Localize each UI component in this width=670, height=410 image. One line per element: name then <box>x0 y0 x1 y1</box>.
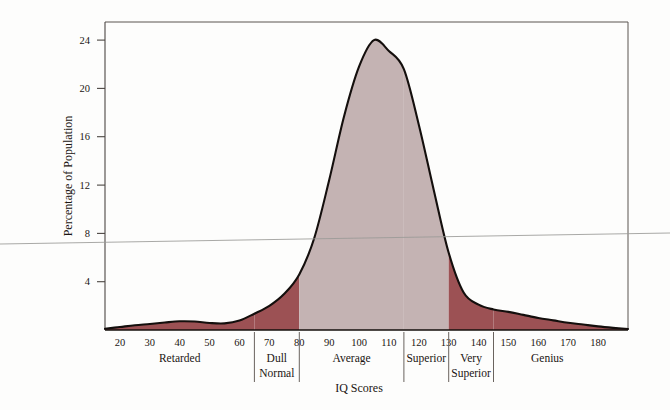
distribution-area-group <box>105 40 628 330</box>
category-label: Retarded <box>159 352 201 364</box>
y-tick-label: 16 <box>80 131 91 142</box>
y-tick-label: 4 <box>85 276 91 287</box>
y-tick-label: 12 <box>80 180 91 191</box>
y-tick-label: 20 <box>80 83 91 94</box>
area-band-average <box>105 40 628 330</box>
x-tick-label: 150 <box>501 337 517 348</box>
category-label: Normal <box>259 367 294 379</box>
x-tick-label: 170 <box>560 337 576 348</box>
y-tick-label: 8 <box>85 228 90 239</box>
y-tick-label: 24 <box>80 35 91 46</box>
x-tick-label: 160 <box>530 337 546 348</box>
category-label: Superior <box>451 367 491 380</box>
y-axis-title: Percentage of Population <box>61 116 75 237</box>
x-tick-label: 20 <box>115 337 126 348</box>
category-label: Dull <box>267 352 287 364</box>
x-tick-label: 140 <box>471 337 487 348</box>
x-axis-ticks: 2030405060708090100110120130140150160170… <box>115 337 606 348</box>
category-labels: RetardedDullNormalAverageSuperiorVerySup… <box>159 352 564 380</box>
x-tick-label: 30 <box>145 337 156 348</box>
x-tick-label: 100 <box>351 337 367 348</box>
category-label: Average <box>333 352 371 365</box>
x-axis-title: IQ Scores <box>335 381 383 395</box>
y-axis-ticks: 4812162024 <box>80 35 106 288</box>
iq-distribution-chart: 4812162024Percentage of Population203040… <box>0 0 670 410</box>
x-tick-label: 180 <box>590 337 606 348</box>
x-tick-label: 60 <box>234 337 245 348</box>
chart-canvas: 4812162024Percentage of Population203040… <box>0 0 670 410</box>
x-tick-label: 120 <box>411 337 427 348</box>
category-label: Superior <box>406 352 446 365</box>
x-tick-label: 70 <box>264 337 275 348</box>
category-label: Very <box>460 352 482 365</box>
x-tick-label: 40 <box>174 337 185 348</box>
x-tick-label: 110 <box>381 337 396 348</box>
x-tick-label: 90 <box>324 337 335 348</box>
x-tick-label: 50 <box>204 337 215 348</box>
category-label: Genius <box>531 352 564 364</box>
